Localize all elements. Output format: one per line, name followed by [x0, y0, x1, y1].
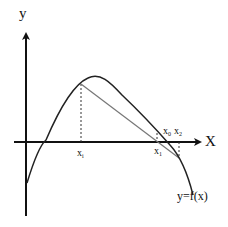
point-label-x2-sub: 2 [179, 131, 182, 137]
point-label-x1: x1 [154, 146, 162, 157]
function-label: y=f(x) [177, 190, 208, 202]
y-axis-label: y [19, 6, 27, 21]
diagram-canvas: y X xi x1 x0 x2 y=f(x) [0, 0, 228, 227]
point-label-x0-sub: 0 [168, 131, 171, 137]
x-axis-label: X [205, 134, 216, 149]
point-label-xi: xi [77, 148, 84, 159]
point-label-xi-sub: i [82, 153, 84, 159]
point-label-x1-sub: 1 [159, 151, 162, 157]
secant-line [81, 84, 179, 158]
point-label-x2: x2 [174, 126, 182, 137]
point-label-x0: x0 [163, 126, 171, 137]
